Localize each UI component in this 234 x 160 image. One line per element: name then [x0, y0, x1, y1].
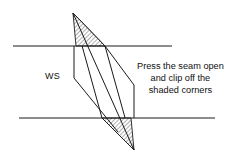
wrong-side-label: WS: [45, 72, 60, 82]
instruction-text: Press the seam open and clip off the sha…: [137, 60, 224, 97]
instruction-line-3: shaded corners: [137, 84, 224, 96]
instruction-line-1: Press the seam open: [137, 60, 224, 72]
seam-center-line: [73, 13, 134, 150]
sewing-seam-diagram: WS Press the seam open and clip off the …: [0, 0, 234, 160]
instruction-line-2: and clip off the: [137, 72, 224, 84]
